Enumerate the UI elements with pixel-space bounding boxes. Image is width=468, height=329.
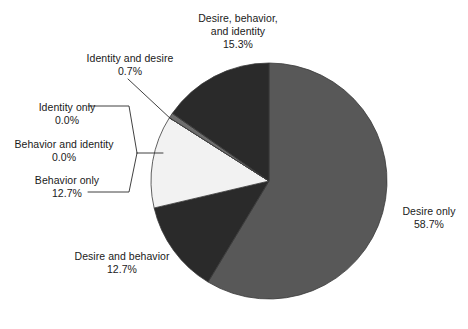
slice-label-desire-only: Desire only 58.7%: [392, 205, 466, 231]
slice-label-desire-and-behavior: Desire and behavior 12.7%: [48, 250, 196, 276]
slice-label-identity-and-desire: Identity and desire 0.7%: [60, 52, 200, 78]
slice-value-desire-behavior-identity: 15.3%: [158, 38, 318, 51]
pie-chart-figure: Desire, behavior, and identity 15.3% Ide…: [0, 0, 468, 329]
slice-label-behavior-and-identity: Behavior and identity 0.0%: [2, 138, 126, 164]
slice-label-text: Behavior only: [8, 174, 126, 187]
slice-value-identity-only: 0.0%: [8, 114, 126, 127]
slice-label-text: Identity and desire: [60, 52, 200, 65]
slice-value-identity-and-desire: 0.7%: [60, 65, 200, 78]
slice-label-text: Desire and behavior: [48, 250, 196, 263]
slice-label-identity-only: Identity only 0.0%: [8, 101, 126, 127]
slice-value-behavior-only: 12.7%: [8, 187, 126, 200]
slice-label-text: Behavior and identity: [2, 138, 126, 151]
slice-value-desire-only: 58.7%: [392, 218, 466, 231]
leader-line-identity-and-desire: [128, 79, 172, 120]
slice-value-behavior-and-identity: 0.0%: [2, 151, 126, 164]
slice-label-desire-behavior-identity: Desire, behavior, and identity 15.3%: [158, 12, 318, 51]
slice-label-behavior-only: Behavior only 12.7%: [8, 174, 126, 200]
slice-label-text: Desire only: [392, 205, 466, 218]
slice-label-text: Identity only: [8, 101, 126, 114]
slice-value-desire-and-behavior: 12.7%: [48, 263, 196, 276]
slice-label-line2: and identity: [158, 25, 318, 38]
slice-label-line1: Desire, behavior,: [158, 12, 318, 25]
